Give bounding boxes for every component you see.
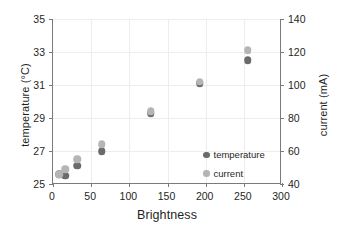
y-axis-right-tick-label: 120 xyxy=(288,46,320,58)
legend-label-temperature: temperature xyxy=(214,150,265,160)
y-axis-right-tick xyxy=(280,151,284,152)
x-axis-tick xyxy=(282,183,283,187)
x-axis-tick-label: 50 xyxy=(75,190,105,202)
y-axis-right-tick-label: 100 xyxy=(288,79,320,91)
x-axis-tick xyxy=(129,183,130,187)
legend-marker-current xyxy=(203,170,210,177)
y-axis-left-tick xyxy=(49,52,53,53)
gridline-horizontal xyxy=(53,19,280,20)
x-axis-tick xyxy=(91,183,92,187)
data-point-current xyxy=(244,47,252,55)
y-axis-left-tick-label: 35 xyxy=(15,13,45,25)
y-axis-right-tick-label: 60 xyxy=(288,145,320,157)
y-axis-right-tick-label: 40 xyxy=(288,178,320,190)
data-point-current xyxy=(147,108,155,116)
y-axis-left-tick xyxy=(49,151,53,152)
y-axis-left-tick xyxy=(49,85,53,86)
gridline-vertical xyxy=(129,19,130,183)
x-axis-tick xyxy=(168,183,169,187)
y-axis-right-tick xyxy=(280,118,284,119)
y-axis-left-tick-label: 27 xyxy=(15,145,45,157)
data-point-temperature xyxy=(244,57,252,65)
legend-item-temperature: temperature xyxy=(203,150,265,160)
x-axis-tick-label: 300 xyxy=(266,190,296,202)
legend-marker-temperature xyxy=(203,152,210,159)
data-point-temperature xyxy=(74,162,82,170)
y-axis-left-tick-label: 29 xyxy=(15,112,45,124)
data-point-current xyxy=(74,156,82,164)
y-axis-right-tick xyxy=(280,19,284,20)
y-axis-left-tick xyxy=(49,118,53,119)
y-axis-left-tick-label: 31 xyxy=(15,79,45,91)
data-point-current xyxy=(98,141,106,149)
y-axis-left-tick xyxy=(49,19,53,20)
y-axis-left-tick-label: 33 xyxy=(15,46,45,58)
gridline-horizontal xyxy=(53,85,280,86)
x-axis-tick-label: 0 xyxy=(37,190,67,202)
y-axis-left-tick-label: 25 xyxy=(15,178,45,190)
y-axis-right-tick-label: 80 xyxy=(288,112,320,124)
x-axis-tick-label: 250 xyxy=(228,190,258,202)
x-axis-tick-label: 150 xyxy=(152,190,182,202)
data-point-current xyxy=(196,78,204,86)
y-axis-right-tick-label: 140 xyxy=(288,13,320,25)
gridline-horizontal xyxy=(53,118,280,119)
x-axis-tick-label: 100 xyxy=(113,190,143,202)
x-axis-tick xyxy=(53,183,54,187)
gridline-vertical xyxy=(168,19,169,183)
data-point-current xyxy=(61,165,69,173)
plot-area: temperature current xyxy=(52,19,281,184)
y-axis-right-tick xyxy=(280,85,284,86)
x-axis-tick-label: 200 xyxy=(190,190,220,202)
data-point-temperature xyxy=(98,147,106,155)
chart-legend: temperature current xyxy=(203,150,265,187)
legend-item-current: current xyxy=(203,169,265,179)
legend-label-current: current xyxy=(214,169,244,179)
gridline-vertical xyxy=(91,19,92,183)
y-axis-right-tick xyxy=(280,52,284,53)
x-axis-title: Brightness xyxy=(52,208,282,222)
scatter-chart-figure: temperature (°C) current (mA) Brightness… xyxy=(0,0,337,233)
